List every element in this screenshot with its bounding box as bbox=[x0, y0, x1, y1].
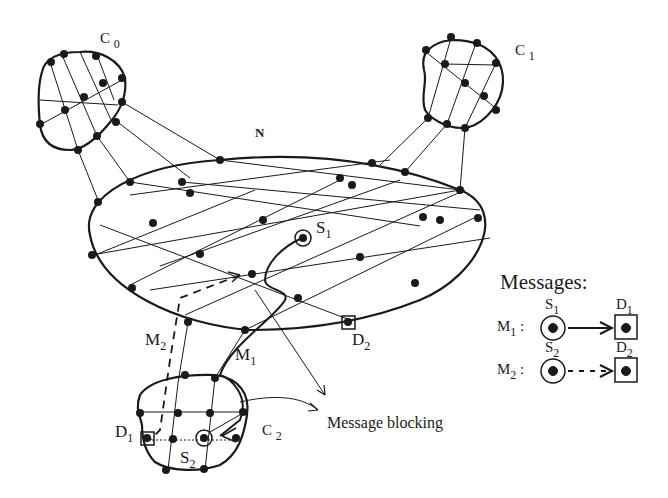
message-blocking-annotation: Message blocking bbox=[327, 414, 443, 432]
label-main: D bbox=[115, 422, 127, 441]
label-sub: 1 bbox=[510, 325, 516, 339]
legend-row-2-msg: M2 : bbox=[497, 361, 524, 378]
label-sub: 1 bbox=[627, 303, 633, 317]
label-sub: 1 bbox=[553, 303, 559, 317]
path-m1-label: M1 bbox=[235, 345, 256, 365]
label-main: D bbox=[352, 330, 364, 349]
legend-row-1-dst: D1 bbox=[616, 296, 633, 313]
node-s1-label: S1 bbox=[316, 218, 331, 238]
network-nodes bbox=[36, 33, 500, 474]
label-sub: 2 bbox=[553, 346, 559, 360]
label-sub: 1 bbox=[250, 354, 256, 368]
label-sub: 2 bbox=[627, 346, 633, 360]
cluster-label: C bbox=[262, 422, 272, 438]
label-sub: 2 bbox=[510, 368, 516, 382]
label-sub: 1 bbox=[325, 227, 331, 241]
path-m1 bbox=[220, 238, 302, 436]
label-main: D bbox=[616, 296, 627, 312]
label-sub: 1 bbox=[127, 431, 133, 445]
cluster-sub: 1 bbox=[529, 49, 535, 63]
legend-row-1-msg: M1 : bbox=[497, 318, 524, 335]
cluster-label: C bbox=[515, 42, 525, 58]
label-main: M bbox=[497, 361, 510, 377]
cluster-c0-label: C 0 bbox=[100, 30, 120, 47]
cluster-sub: 0 bbox=[114, 37, 120, 51]
legend-row-2-dst: D2 bbox=[616, 339, 633, 356]
label-main: M bbox=[145, 330, 160, 349]
label-sub: 2 bbox=[189, 457, 195, 471]
path-m2-label: M2 bbox=[145, 330, 166, 350]
label-main: M bbox=[235, 345, 250, 364]
node-d2-label: D2 bbox=[352, 330, 370, 350]
path-m2 bbox=[150, 275, 240, 440]
label-main: M bbox=[497, 318, 510, 334]
cluster-c1-label: C 1 bbox=[515, 42, 535, 59]
cluster-label: C bbox=[100, 30, 110, 46]
node-d1-label: D1 bbox=[115, 422, 133, 442]
legend-row-2-src: S2 bbox=[545, 339, 559, 356]
cluster-sub: 2 bbox=[276, 429, 282, 443]
label-sub: 2 bbox=[364, 339, 370, 353]
label-main: D bbox=[616, 339, 627, 355]
label-sub: 2 bbox=[160, 339, 166, 353]
legend-title: Messages: bbox=[500, 270, 588, 295]
legend-row-1-src: S1 bbox=[545, 296, 559, 313]
cluster-c2-label: C 2 bbox=[262, 422, 282, 439]
network-label: N bbox=[255, 125, 264, 141]
node-s2-label: S2 bbox=[180, 448, 195, 468]
